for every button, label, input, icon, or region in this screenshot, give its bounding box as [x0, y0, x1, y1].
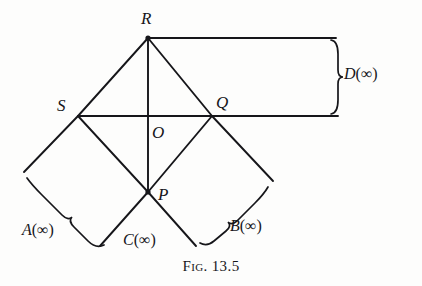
- vertex-label-o: O: [152, 124, 164, 141]
- region-symbol-a: A: [22, 221, 32, 238]
- figure-caption-prefix: Fig.: [182, 258, 207, 274]
- figure-caption-number: 13.5: [212, 258, 240, 274]
- vertex-dot-r: [145, 35, 150, 40]
- region-symbol-b: B: [230, 217, 240, 234]
- edge-R-S: [78, 38, 148, 116]
- line-segments-group: [24, 38, 338, 246]
- region-paren-close-c: ): [150, 231, 155, 248]
- infinity-glyph-c: ∞: [139, 231, 150, 248]
- vertex-label-q: Q: [216, 94, 228, 111]
- vertex-label-r: R: [141, 10, 151, 27]
- figure-13-5: RSQOP A(∞)B(∞)C(∞)D(∞) Fig.13.5: [0, 0, 422, 286]
- brace-B: [200, 187, 268, 245]
- figure-drawing-canvas: [0, 0, 422, 286]
- region-label-a: A(∞): [22, 222, 54, 238]
- region-label-b: B(∞): [230, 218, 262, 234]
- infinity-glyph-d: ∞: [361, 65, 372, 82]
- region-label-d: D(∞): [344, 66, 378, 82]
- region-label-c: C(∞): [123, 232, 156, 248]
- brace-D: [331, 40, 343, 114]
- region-paren-close-d: ): [372, 65, 377, 82]
- region-symbol-d: D: [344, 65, 356, 82]
- region-symbol-c: C: [123, 231, 134, 248]
- region-paren-close-b: ): [257, 217, 262, 234]
- ray-Q-down-right: [212, 116, 273, 181]
- infinity-glyph-b: ∞: [245, 217, 256, 234]
- vertex-label-s: S: [57, 97, 66, 114]
- ray-S-down-left: [24, 116, 78, 172]
- braces-group: [27, 40, 343, 246]
- region-paren-close-a: ): [49, 221, 54, 238]
- figure-caption: Fig.13.5: [0, 258, 422, 275]
- edge-R-Q: [148, 38, 212, 116]
- vertex-dot-p: [145, 189, 150, 194]
- edge-S-P: [78, 116, 148, 192]
- vertex-label-p: P: [158, 186, 168, 203]
- infinity-glyph-a: ∞: [37, 221, 48, 238]
